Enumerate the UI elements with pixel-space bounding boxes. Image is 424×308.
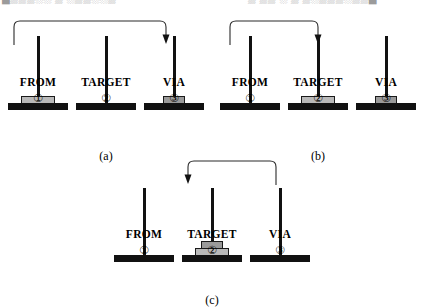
peg-label-via: VIA [354,76,418,88]
peg-station-target[interactable]: TARGET ② [286,18,350,110]
panel-caption-c: (c) [106,293,318,308]
clipped-header-text: █▒▒▒░░ ▒ ░▒▒░░▒ ▒ ▒▒ ░ ▒ ▒░▒▒▒░▒▒█ [0,0,424,7]
peg-station-target[interactable]: TARGET ② [180,170,244,262]
peg-number-target: ② [180,244,244,257]
peg-station-from[interactable]: FROM ① [112,170,176,262]
panel-b: FROM ① TARGET ② VIA ③ (b) [212,12,424,152]
peg-station-via[interactable]: VIA ③ [248,170,312,262]
peg-station-from[interactable]: FROM ① [218,18,282,110]
peg-label-target: TARGET [180,228,244,240]
peg-number-target: ② [286,92,350,105]
peg-number-via: ③ [248,244,312,257]
peg-number-from: ① [218,92,282,105]
peg-label-from: FROM [6,76,70,88]
clipped-header-left: █▒▒▒░░ ▒ ░▒▒░░▒ [2,0,116,3]
clipped-header-right: ▒ ▒▒ ░ ▒ ▒░▒▒▒░▒▒█ [248,0,377,3]
peg-number-via: ③ [354,92,418,105]
peg-label-target: TARGET [286,76,350,88]
peg-number-from: ① [112,244,176,257]
peg-label-from: FROM [112,228,176,240]
peg-label-via: VIA [248,228,312,240]
peg-label-via: VIA [142,76,206,88]
peg-number-target: ② [74,92,138,105]
peg-station-target[interactable]: TARGET ② [74,18,138,110]
peg-number-from: ① [6,92,70,105]
peg-station-via[interactable]: VIA ③ [142,18,206,110]
panel-c: FROM ① TARGET ② VIA ③ (c) [106,158,318,304]
peg-label-target: TARGET [74,76,138,88]
panel-a: FROM ① TARGET ② VIA ③ (a) [0,12,212,152]
peg-station-from[interactable]: FROM ① [6,18,70,110]
peg-station-via[interactable]: VIA ③ [354,18,418,110]
peg-label-from: FROM [218,76,282,88]
peg-number-via: ③ [142,92,206,105]
